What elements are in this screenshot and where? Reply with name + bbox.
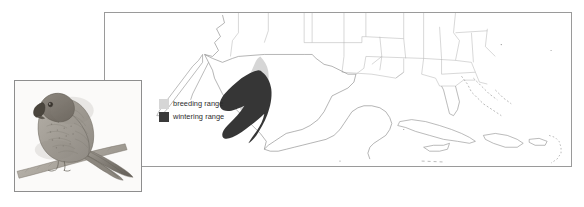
bahamas-islands	[461, 76, 511, 115]
breeding-range-swatch	[159, 99, 169, 109]
wintering-range-swatch	[159, 112, 169, 122]
legend-label-wintering-range: wintering range	[173, 112, 224, 122]
cuba-outline	[398, 120, 476, 144]
greater-antilles-outline	[424, 133, 547, 151]
small-islands	[339, 44, 551, 162]
south-caribbean-dashes	[422, 161, 446, 162]
figure-root: breeding range wintering range	[0, 0, 584, 207]
lesser-antilles-arc	[549, 135, 561, 163]
map-legend: breeding range wintering range	[159, 98, 241, 124]
map-panel	[104, 12, 572, 167]
distribution-map	[105, 13, 571, 166]
eye-highlight	[49, 103, 50, 104]
florida-outline	[442, 86, 460, 116]
legend-item-wintering-range: wintering range	[159, 111, 241, 122]
legend-item-breeding-range: breeding range	[159, 98, 241, 109]
bird-illustration-panel	[14, 80, 142, 192]
legend-label-breeding-range: breeding range	[173, 99, 223, 109]
state-borders	[230, 13, 495, 86]
parrot-illustration	[15, 81, 141, 191]
